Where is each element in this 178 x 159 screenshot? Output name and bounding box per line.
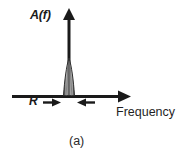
spectrum-lobe [64,58,75,96]
spectrum-figure-graphic [0,0,178,159]
bandwidth-right-arrowhead-icon [77,99,86,107]
spectrum-figure-panel-a: A(f) R Frequency (a) [0,0,178,159]
spectrum-lobe-shape [64,58,75,96]
bandwidth-left-arrowhead-icon [52,99,61,107]
bandwidth-label: R [29,95,38,107]
y-axis-label: A(f) [30,9,51,22]
y-axis-arrowhead-icon [63,8,75,20]
panel-caption: (a) [69,135,84,148]
bandwidth-arrows [43,99,95,107]
x-axis-label: Frequency [116,106,175,119]
x-axis-arrowhead-icon [118,91,131,103]
